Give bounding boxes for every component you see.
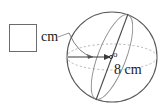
curved-pointer-arrow bbox=[69, 33, 93, 57]
leader-line bbox=[58, 33, 69, 37]
radius-dimension-label: 8 cm bbox=[114, 63, 142, 77]
center-point-label: o bbox=[113, 50, 118, 59]
answer-input-box[interactable] bbox=[9, 24, 37, 52]
sphere-diagram-svg bbox=[0, 0, 162, 110]
sphere-radius-figure: cm o 8 cm bbox=[0, 0, 162, 110]
unit-label-cm: cm bbox=[41, 30, 58, 44]
radius-arrowhead bbox=[104, 54, 111, 60]
